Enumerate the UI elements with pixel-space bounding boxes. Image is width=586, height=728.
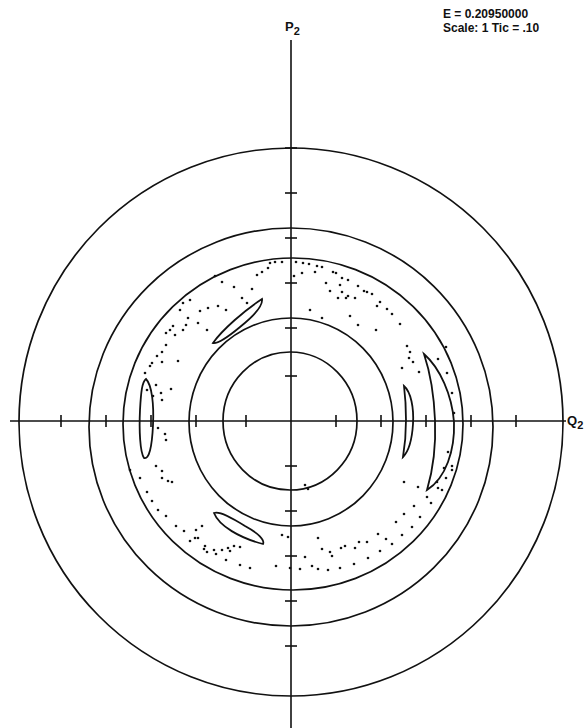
p2-axis-label-sub: 2	[294, 25, 300, 37]
chaotic-point	[221, 281, 224, 284]
chaotic-point	[129, 469, 132, 472]
chaotic-point	[139, 477, 142, 480]
chaotic-point	[317, 568, 320, 571]
chaotic-point	[165, 332, 168, 335]
chaotic-point	[446, 372, 449, 375]
chaotic-point	[321, 266, 324, 269]
chaotic-point	[304, 484, 307, 487]
chaotic-point	[327, 569, 330, 572]
chaotic-point	[239, 564, 242, 567]
chaotic-point	[167, 480, 170, 483]
chaotic-point	[379, 550, 382, 553]
chaotic-point	[164, 433, 167, 436]
chaotic-point	[445, 346, 448, 349]
chaotic-point	[379, 301, 382, 304]
chaotic-point	[206, 551, 209, 554]
chaotic-point	[375, 329, 378, 332]
chaotic-point	[233, 545, 236, 548]
chaotic-point	[358, 541, 361, 544]
chaotic-point	[321, 317, 324, 320]
chaotic-point	[261, 271, 264, 274]
chaotic-point	[170, 388, 173, 391]
chaotic-point	[418, 371, 421, 374]
chaotic-point	[189, 299, 192, 302]
chaotic-point	[363, 290, 366, 293]
chaotic-point	[187, 317, 190, 320]
chaotic-point	[371, 293, 374, 296]
chaotic-point	[185, 324, 188, 327]
chaotic-point	[149, 365, 152, 368]
chaotic-point	[331, 555, 334, 558]
chaotic-point	[281, 534, 284, 537]
chaotic-point	[246, 302, 249, 305]
chaotic-point	[299, 568, 302, 571]
chaotic-point	[152, 395, 155, 398]
chaotic-point	[307, 488, 310, 491]
chaotic-point	[199, 310, 202, 313]
chaotic-point	[174, 334, 177, 337]
chaotic-point	[281, 261, 284, 264]
chaotic-point	[309, 309, 312, 312]
chaotic-point	[308, 263, 311, 266]
chaotic-point	[332, 271, 335, 274]
chaotic-point	[177, 360, 180, 363]
energy-annotation: E = 0.20950000	[443, 7, 539, 21]
chaotic-point	[302, 262, 305, 265]
chaotic-point	[436, 481, 439, 484]
chaotic-point	[357, 285, 360, 288]
chaotic-point	[391, 543, 394, 546]
chaotic-point	[161, 361, 164, 364]
chaotic-point	[203, 548, 206, 551]
chaotic-point	[347, 279, 350, 282]
chaotic-point	[337, 297, 340, 300]
chaotic-point	[409, 351, 412, 354]
chaotic-point	[451, 469, 454, 472]
chaotic-point	[341, 277, 344, 280]
chaotic-point	[217, 305, 220, 308]
chaotic-point	[437, 487, 440, 490]
chaotic-point	[161, 477, 164, 480]
chaotic-point	[377, 533, 380, 536]
chaotic-point	[194, 537, 197, 540]
chaotic-point	[411, 526, 414, 529]
chaotic-point	[403, 481, 406, 484]
chaotic-point	[412, 361, 415, 364]
chaotic-point	[314, 271, 317, 274]
chaotic-point	[241, 297, 244, 300]
chaotic-point	[189, 540, 192, 543]
chaotic-point	[395, 521, 398, 524]
chaotic-point	[267, 267, 270, 270]
chaotic-point	[453, 412, 456, 415]
chaotic-point	[214, 275, 217, 278]
chaotic-point	[144, 372, 147, 375]
chaotic-point	[169, 329, 172, 332]
chaotic-point	[274, 261, 277, 264]
chaotic-point	[321, 548, 324, 551]
chaotic-point	[201, 525, 204, 528]
chaotic-point	[349, 315, 352, 318]
chaotic-point	[304, 556, 307, 559]
chaotic-point	[293, 275, 296, 278]
chaotic-point	[341, 291, 344, 294]
chaotic-point	[325, 282, 328, 285]
chaotic-point	[316, 265, 319, 268]
chaotic-point	[275, 565, 278, 568]
chaotic-point	[227, 547, 230, 550]
chaotic-point	[151, 500, 154, 503]
chaotic-point	[151, 362, 154, 365]
chaotic-point	[385, 538, 388, 541]
chaotic-point	[161, 470, 164, 473]
chaotic-point	[239, 546, 242, 549]
chaotic-point	[289, 567, 292, 570]
q2-axis-label-sub: 2	[577, 419, 583, 431]
chaotic-point	[347, 295, 350, 298]
chaotic-point	[161, 399, 164, 402]
chaotic-point	[366, 291, 369, 294]
chaotic-point	[157, 509, 160, 512]
chaotic-point	[391, 313, 394, 316]
chaotic-point	[329, 290, 332, 293]
chaotic-point	[269, 262, 272, 265]
chaotic-point	[430, 502, 433, 505]
poincare-plot	[0, 0, 586, 728]
chaotic-point	[221, 549, 224, 552]
